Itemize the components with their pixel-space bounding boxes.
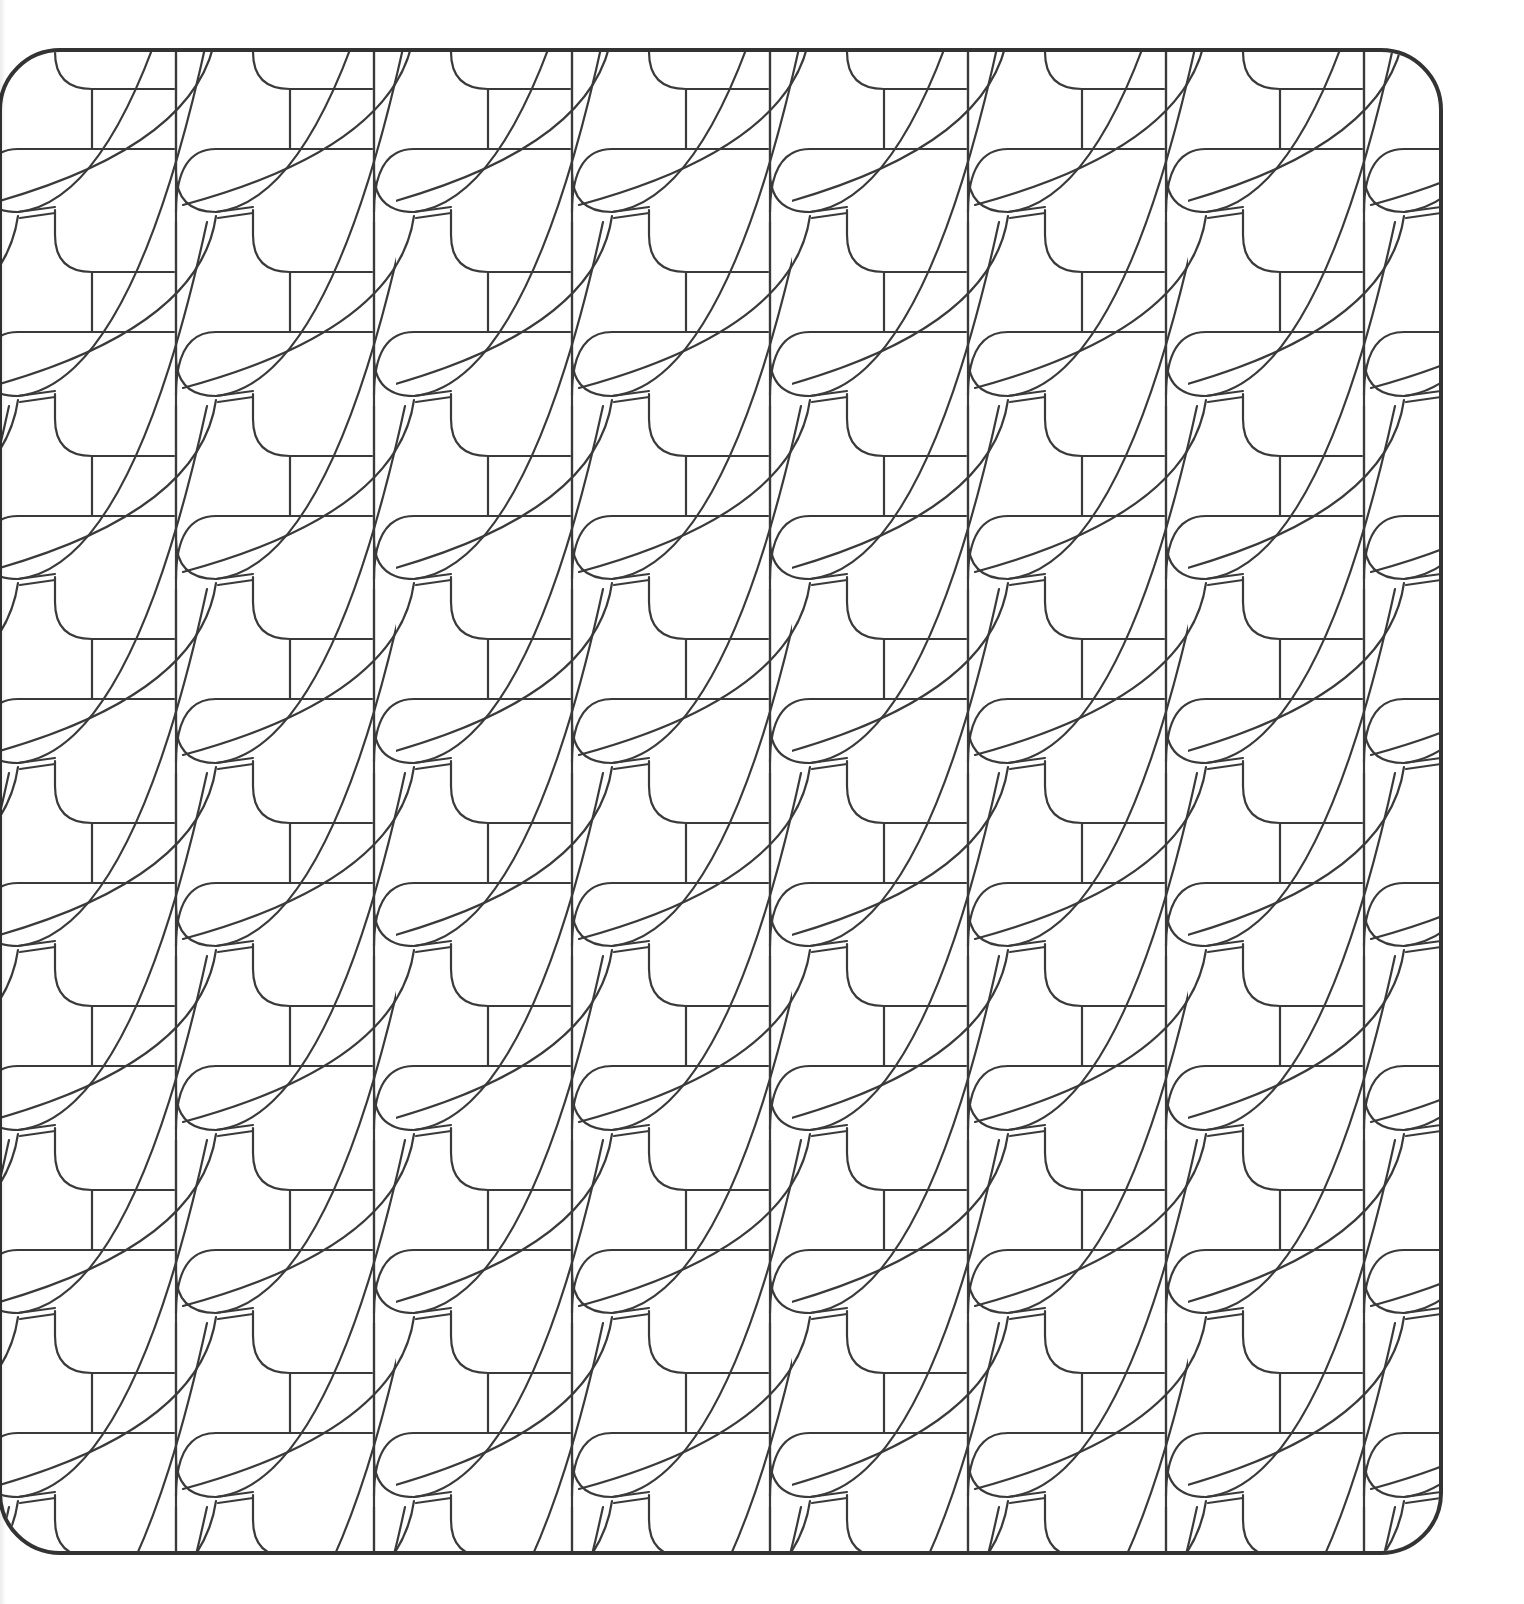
tessellation-coloring-page: [0, 0, 1524, 1604]
scan-shadow: [0, 0, 6, 1604]
tile-pattern: [0, 50, 1441, 1553]
